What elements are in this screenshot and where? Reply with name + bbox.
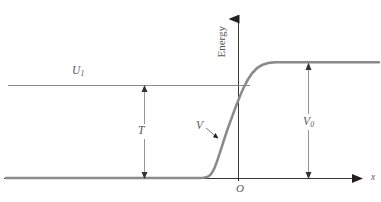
v-leader-arrow-icon: [213, 133, 219, 139]
label-v0-subscript: 0: [310, 120, 314, 129]
potential-curve-v: [6, 62, 379, 178]
label-y-axis: Energy: [216, 0, 227, 26]
v-curve-path: [6, 62, 379, 178]
label-u1-subscript: 1: [80, 69, 84, 78]
label-x-axis: x: [371, 173, 375, 183]
label-t: T: [138, 125, 144, 137]
v0-arrow-head-down-icon: [306, 172, 312, 179]
label-v: V: [196, 120, 203, 132]
label-u1: U1: [72, 65, 84, 77]
v0-arrow-head-up-icon: [306, 63, 312, 71]
label-origin: O: [236, 183, 244, 194]
label-y-axis-text: Energy: [216, 26, 227, 58]
t-arrow-head-up-icon: [142, 85, 148, 92]
label-v0: V0: [303, 116, 314, 128]
diagram-canvas: [0, 0, 381, 202]
energy-diagram-figure: U1 T V V0 O x Energy: [0, 0, 381, 202]
v-label-leader: [206, 128, 219, 139]
